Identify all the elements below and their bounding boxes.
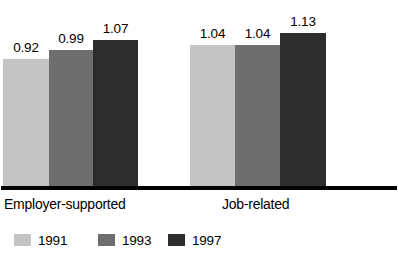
plot-area: 0.92 0.99 1.07 1.04 1.04 1.13 [0, 0, 399, 190]
legend-item-1991: 1991 [14, 230, 67, 250]
bar-value-label: 0.99 [49, 31, 93, 46]
legend-swatch-1991 [14, 234, 31, 246]
legend-item-1997: 1997 [168, 230, 221, 250]
legend-label-1993: 1993 [122, 233, 151, 248]
legend-swatch-1997 [168, 234, 185, 246]
bar-value-label: 1.13 [280, 14, 326, 29]
bar-value-label: 1.04 [235, 26, 280, 41]
legend-label-1997: 1997 [192, 233, 221, 248]
bar-job-related-1991 [190, 45, 235, 190]
bar-job-related-1993 [235, 45, 280, 190]
bar-employer-supported-1991 [3, 59, 49, 190]
bar-chart: 0.92 0.99 1.07 1.04 1.04 1.13 Employer-s… [0, 0, 399, 261]
bar-value-label: 1.07 [93, 21, 138, 36]
legend-label-1991: 1991 [38, 233, 67, 248]
x-axis-line [1, 186, 397, 190]
legend-swatch-1993 [98, 234, 115, 246]
bar-employer-supported-1997 [93, 40, 138, 190]
bar-job-related-1997 [280, 33, 326, 190]
legend-item-1993: 1993 [98, 230, 151, 250]
bar-employer-supported-1993 [49, 50, 93, 190]
category-label-job-related: Job-related [222, 196, 289, 212]
bar-value-label: 1.04 [190, 26, 235, 41]
category-label-employer-supported: Employer-supported [4, 196, 126, 212]
bar-value-label: 0.92 [3, 40, 49, 55]
legend: 1991 1993 1997 [0, 230, 399, 252]
